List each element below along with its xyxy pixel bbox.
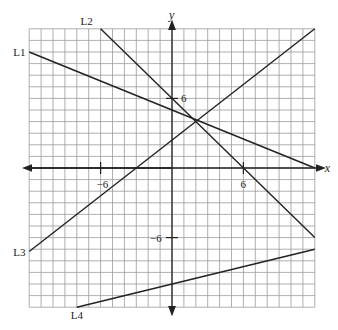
y-tick-label: −6 bbox=[150, 232, 162, 244]
coordinate-plane: −666−6xyL1L2L3L4 bbox=[0, 0, 338, 330]
y-axis-label: y bbox=[168, 8, 175, 22]
x-axis-label: x bbox=[324, 161, 331, 175]
line-label-l2: L2 bbox=[81, 15, 93, 27]
axes bbox=[27, 25, 321, 311]
x-tick-label: 6 bbox=[240, 178, 246, 190]
y-tick-label: 6 bbox=[181, 92, 187, 104]
line-label-l4: L4 bbox=[71, 309, 84, 321]
line-label-l3: L3 bbox=[13, 246, 26, 258]
x-tick-label: −6 bbox=[97, 178, 109, 190]
line-label-l1: L1 bbox=[13, 46, 25, 58]
